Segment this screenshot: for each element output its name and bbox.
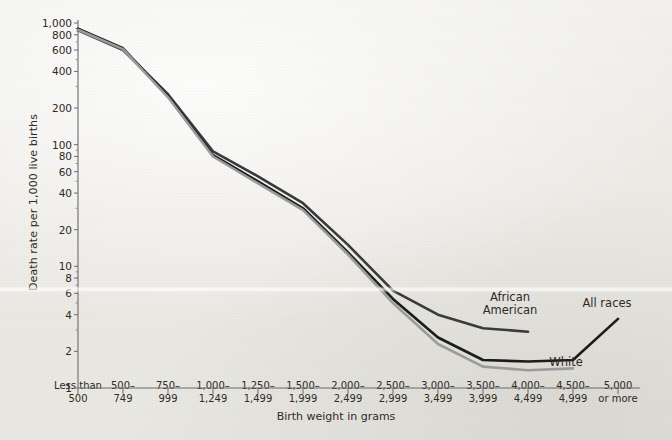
series-line (78, 30, 573, 370)
y-axis-tick-marks (74, 23, 78, 388)
series-label: White (549, 356, 582, 369)
data-series-lines (78, 29, 618, 371)
x-axis-tick-marks (78, 388, 618, 394)
plot-area (0, 0, 672, 440)
axis-lines (78, 20, 640, 388)
series-label: All races (582, 297, 631, 310)
series-label: AfricanAmerican (483, 291, 538, 317)
chart-figure: Death rate per 1,000 live births Birth w… (0, 0, 672, 440)
scan-artifact-band (0, 286, 672, 293)
